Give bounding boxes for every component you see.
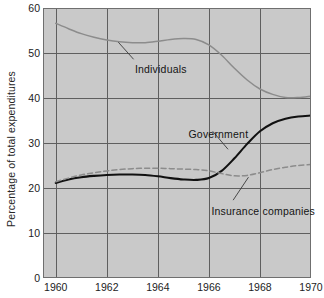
y-tick-label: 50 xyxy=(16,48,40,58)
y-tick-label: 20 xyxy=(16,183,40,193)
chart-screenshot: Percentage of total expenditures 0102030… xyxy=(0,0,324,298)
annotation-insurance-companies: Insurance companies xyxy=(211,205,315,217)
x-tick-label: 1970 xyxy=(299,281,322,293)
y-tick-label: 30 xyxy=(16,138,40,148)
annotation-government: Government xyxy=(188,128,248,140)
x-tick-label: 1962 xyxy=(95,281,118,293)
x-tick-label: 1966 xyxy=(197,281,220,293)
x-tick-label: 1968 xyxy=(248,281,271,293)
y-axis-tick-labels: 0102030405060 xyxy=(12,0,40,298)
y-tick-label: 40 xyxy=(16,93,40,103)
x-axis-tick-labels: 196019621964196619681970 xyxy=(0,281,324,297)
plot-svg xyxy=(43,8,311,278)
y-tick-label: 10 xyxy=(16,228,40,238)
x-tick-label: 1960 xyxy=(44,281,67,293)
y-tick-label: 60 xyxy=(16,3,40,13)
annotation-individuals: Individuals xyxy=(135,63,187,75)
x-tick-label: 1964 xyxy=(146,281,169,293)
plot-area xyxy=(43,8,311,278)
